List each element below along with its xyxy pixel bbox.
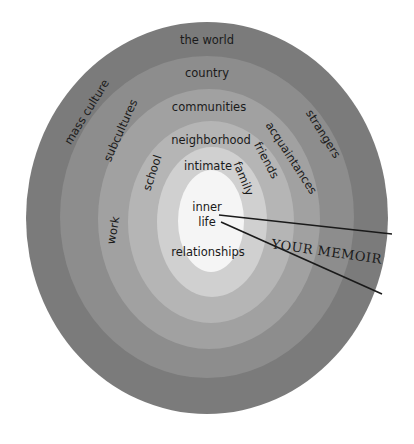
label-inner: inner [192,200,222,214]
label-intimate: intimate [184,159,232,173]
label-relationships: relationships [171,245,245,259]
label-the-world: the world [180,33,234,47]
label-country: country [185,66,229,80]
label-communities: communities [172,100,246,114]
diagram-canvas: the world country communities neighborho… [0,0,414,444]
memoir-circles-diagram: the world country communities neighborho… [0,0,414,444]
label-life: life [198,215,216,229]
label-neighborhood: neighborhood [171,133,251,147]
